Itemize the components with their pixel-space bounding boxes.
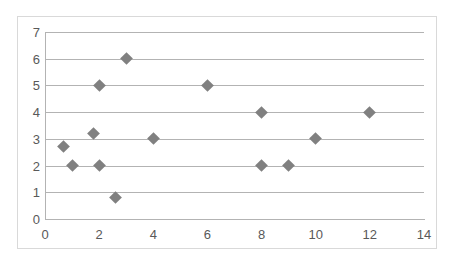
scatter-chart: 01234567 02468101214 [0, 0, 457, 264]
y-tick-label: 1 [16, 186, 40, 199]
x-tick-label: 6 [192, 228, 222, 241]
data-point [66, 159, 79, 172]
y-axis-tick-labels: 01234567 [14, 32, 40, 219]
data-point [93, 79, 106, 92]
x-tick-label: 8 [247, 228, 277, 241]
y-tick-label: 0 [16, 213, 40, 226]
x-axis-tick-labels: 02468101214 [45, 228, 425, 246]
gridline [45, 192, 424, 193]
x-tick-label: 2 [84, 228, 114, 241]
x-axis-line [45, 219, 425, 220]
x-tick-label: 12 [355, 228, 385, 241]
y-tick-label: 3 [16, 132, 40, 145]
y-tick-label: 7 [16, 26, 40, 39]
data-point [147, 132, 160, 145]
data-point [255, 159, 268, 172]
y-tick-label: 4 [16, 106, 40, 119]
data-point [363, 106, 376, 119]
y-tick-label: 2 [16, 159, 40, 172]
data-point [93, 159, 106, 172]
data-point [201, 79, 214, 92]
x-tick-label: 14 [409, 228, 439, 241]
gridline [45, 139, 424, 140]
data-point [120, 52, 133, 65]
x-tick-label: 0 [30, 228, 60, 241]
y-tick-label: 5 [16, 79, 40, 92]
data-point [309, 132, 322, 145]
data-point [58, 140, 71, 153]
gridline [45, 59, 424, 60]
plot-area [45, 32, 424, 219]
x-tick-label: 10 [301, 228, 331, 241]
data-point [255, 106, 268, 119]
gridline [45, 32, 424, 33]
data-point [282, 159, 295, 172]
y-tick-label: 6 [16, 52, 40, 65]
x-tick-label: 4 [138, 228, 168, 241]
